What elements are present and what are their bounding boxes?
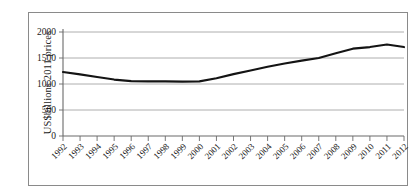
line-chart: 0500100015002000 19921993199419951996199… xyxy=(29,13,409,187)
gridline-group xyxy=(59,32,404,136)
x-tick-label: 1999 xyxy=(168,141,188,161)
y-tick-label-group: 0500100015002000 xyxy=(37,27,56,141)
chart-frame: US$billions 2011 prices 0500100015002000… xyxy=(28,12,408,186)
x-tick-label-group: 1992199319941995199619971998199920002001… xyxy=(49,141,409,161)
x-tick-label: 2008 xyxy=(322,141,342,161)
y-tick-label: 2000 xyxy=(37,27,56,37)
x-tick-group xyxy=(63,136,404,141)
x-tick-label: 1993 xyxy=(66,141,86,161)
x-tick-label: 2001 xyxy=(203,141,223,161)
x-tick-label: 1992 xyxy=(49,141,69,161)
y-tick-label: 0 xyxy=(51,131,56,141)
x-tick-label: 2009 xyxy=(339,141,359,161)
x-tick-label: 2003 xyxy=(237,141,257,161)
x-tick-label: 2006 xyxy=(288,141,308,161)
x-tick-label: 2012 xyxy=(390,141,409,161)
x-tick-label: 2005 xyxy=(271,141,291,161)
axis-group xyxy=(63,29,404,136)
x-tick-label: 2011 xyxy=(373,141,393,161)
y-tick-label: 1000 xyxy=(37,79,56,89)
figure-container: US$billions 2011 prices 0500100015002000… xyxy=(0,0,415,193)
x-tick-label: 2002 xyxy=(220,141,240,161)
x-tick-label: 2010 xyxy=(356,141,376,161)
x-tick-label: 1995 xyxy=(100,141,120,161)
y-tick-label: 500 xyxy=(42,105,57,115)
x-tick-label: 2004 xyxy=(254,141,274,161)
x-tick-label: 2000 xyxy=(186,141,206,161)
x-tick-label: 1997 xyxy=(134,141,154,161)
x-tick-label: 1996 xyxy=(117,141,137,161)
data-series-line xyxy=(63,44,404,81)
x-tick-label: 1998 xyxy=(151,141,171,161)
y-tick-label: 1500 xyxy=(37,53,56,63)
x-tick-label: 2007 xyxy=(305,141,325,161)
x-tick-label: 1994 xyxy=(83,141,103,161)
